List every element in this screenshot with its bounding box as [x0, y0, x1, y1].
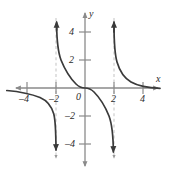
x-tick-label-neg2: –2	[49, 94, 59, 104]
y-tick-label-neg2: –2	[65, 111, 75, 121]
y-tick-label-pos2: 2	[69, 55, 74, 65]
y-tick-label-pos4: 4	[69, 27, 74, 37]
x-tick-label-pos2: 2	[111, 94, 116, 104]
y-tick-label-neg4: –4	[65, 139, 75, 149]
x-tick-label-neg4: –4	[19, 94, 29, 104]
origin-label: 0	[76, 92, 81, 102]
x-axis-label: x	[156, 74, 160, 84]
graph-figure: –4 –2 2 4 4 2 –2 –4 0 x y	[0, 0, 169, 175]
x-tick-label-pos4: 4	[140, 94, 145, 104]
y-axis-label: y	[89, 9, 93, 19]
rational-function-plot	[0, 0, 169, 175]
curve-right-branch	[114, 26, 160, 88]
